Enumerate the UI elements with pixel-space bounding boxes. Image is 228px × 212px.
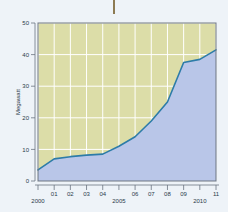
x-tick-label: 02 bbox=[67, 191, 74, 197]
y-axis-tick-marks bbox=[31, 23, 35, 181]
megawatt-area-chart: 01020304050 2000010203042005060708092010… bbox=[0, 0, 228, 212]
y-tick-label: 50 bbox=[22, 20, 29, 26]
x-tick-label: 07 bbox=[148, 191, 155, 197]
x-tick-label: 2005 bbox=[112, 198, 126, 204]
x-tick-label: 09 bbox=[180, 191, 187, 197]
x-axis-tick-marks bbox=[38, 185, 216, 190]
y-axis-title: Megawatt bbox=[15, 89, 21, 115]
y-tick-label: 30 bbox=[22, 83, 29, 89]
x-tick-label: 03 bbox=[83, 191, 90, 197]
y-tick-label: 20 bbox=[22, 115, 29, 121]
x-tick-label: 2010 bbox=[193, 198, 207, 204]
x-tick-label: 08 bbox=[164, 191, 171, 197]
y-axis-tick-labels: 01020304050 bbox=[22, 20, 29, 184]
x-tick-label: 01 bbox=[51, 191, 58, 197]
x-tick-label: 04 bbox=[99, 191, 106, 197]
y-tick-label: 10 bbox=[22, 147, 29, 153]
x-tick-label: 11 bbox=[213, 191, 220, 197]
chart-figure: 01020304050 2000010203042005060708092010… bbox=[0, 0, 228, 212]
x-tick-label: 06 bbox=[132, 191, 139, 197]
y-tick-label: 40 bbox=[22, 52, 29, 58]
x-tick-label: 2000 bbox=[31, 198, 45, 204]
x-axis-tick-labels: 200001020304200506070809201011 bbox=[31, 191, 219, 204]
y-tick-label: 0 bbox=[26, 178, 30, 184]
